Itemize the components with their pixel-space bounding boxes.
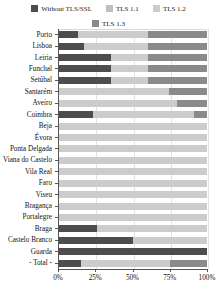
legend-item-tls-1-2[interactable]: TLS 1.2 <box>153 5 186 13</box>
table-row[interactable] <box>59 177 207 188</box>
stacked-bar[interactable] <box>59 225 207 232</box>
bar-segment[interactable] <box>194 111 207 118</box>
stacked-bar[interactable] <box>59 43 207 50</box>
table-row[interactable] <box>59 235 207 246</box>
y-axis-label: Viana do Castelo <box>0 155 55 166</box>
x-axis-label: 50% <box>126 274 139 282</box>
bar-segment[interactable] <box>59 168 207 175</box>
bar-segment[interactable] <box>59 203 207 210</box>
table-row[interactable] <box>59 155 207 166</box>
bar-segment[interactable] <box>59 237 133 244</box>
bar-segment[interactable] <box>59 157 207 164</box>
stacked-bar[interactable] <box>59 203 207 210</box>
y-axis-label: Viseu <box>0 189 55 200</box>
table-row[interactable] <box>59 75 207 86</box>
stacked-bar[interactable] <box>59 180 207 187</box>
y-axis-label: Bragança <box>0 200 55 211</box>
y-axis-label: Funchal <box>0 63 55 74</box>
bar-segment[interactable] <box>133 237 207 244</box>
table-row[interactable] <box>59 189 207 200</box>
bar-segment[interactable] <box>148 65 207 72</box>
stacked-bar[interactable] <box>59 31 207 38</box>
y-axis-label: Vila Real <box>0 166 55 177</box>
bar-segment[interactable] <box>59 111 93 118</box>
y-axis-label: Faro <box>0 177 55 188</box>
table-row[interactable] <box>59 109 207 120</box>
table-row[interactable] <box>59 212 207 223</box>
bar-segment[interactable] <box>78 31 148 38</box>
table-row[interactable] <box>59 143 207 154</box>
stacked-bar[interactable] <box>59 157 207 164</box>
legend-item-tls-1-1[interactable]: TLS 1.1 <box>106 5 139 13</box>
bar-segment[interactable] <box>81 260 170 267</box>
y-axis-label: Braga <box>0 223 55 234</box>
table-row[interactable] <box>59 98 207 109</box>
table-row[interactable] <box>59 223 207 234</box>
table-row[interactable] <box>59 246 207 257</box>
bar-segment[interactable] <box>59 260 81 267</box>
bar-segment[interactable] <box>169 88 207 95</box>
bar-segment[interactable] <box>59 31 78 38</box>
bar-segment[interactable] <box>59 191 207 198</box>
legend-swatch-icon-without-tls-ssl <box>31 5 38 12</box>
stacked-bar[interactable] <box>59 248 207 255</box>
table-row[interactable] <box>59 52 207 63</box>
stacked-bar[interactable] <box>59 214 207 221</box>
stacked-bar[interactable] <box>59 77 207 84</box>
bar-segment[interactable] <box>59 123 207 130</box>
bar-segment[interactable] <box>59 77 111 84</box>
stacked-bar[interactable] <box>59 100 207 107</box>
table-row[interactable] <box>59 257 207 268</box>
legend-item-without-tls-ssl[interactable]: Without TLS/SSL <box>31 5 92 13</box>
bar-segment[interactable] <box>84 43 148 50</box>
table-row[interactable] <box>59 29 207 40</box>
bar-segment[interactable] <box>59 145 207 152</box>
table-row[interactable] <box>59 200 207 211</box>
bar-segment[interactable] <box>148 43 207 50</box>
bar-segment[interactable] <box>59 248 207 255</box>
table-row[interactable] <box>59 86 207 97</box>
bar-segment[interactable] <box>59 214 207 221</box>
table-row[interactable] <box>59 40 207 51</box>
x-axis-tick <box>170 269 171 272</box>
y-axis-label: Setúbal <box>0 75 55 86</box>
stacked-bar[interactable] <box>59 237 207 244</box>
bar-segment[interactable] <box>59 100 177 107</box>
x-axis-label: 100% <box>199 274 216 282</box>
bar-segment[interactable] <box>111 54 148 61</box>
bar-segment[interactable] <box>148 31 207 38</box>
bar-segment[interactable] <box>93 111 194 118</box>
bar-segment[interactable] <box>170 260 207 267</box>
stacked-bar[interactable] <box>59 260 207 267</box>
bar-segment[interactable] <box>59 54 111 61</box>
stacked-bar[interactable] <box>59 54 207 61</box>
stacked-bar[interactable] <box>59 123 207 130</box>
chart-legend: Without TLS/SSL TLS 1.1 TLS 1.2 TLS 1.3 <box>0 2 217 28</box>
bar-segment[interactable] <box>59 225 97 232</box>
stacked-bar[interactable] <box>59 88 207 95</box>
stacked-bar[interactable] <box>59 134 207 141</box>
legend-item-tls-1-3[interactable]: TLS 1.3 <box>92 20 125 28</box>
stacked-bar[interactable] <box>59 191 207 198</box>
bar-segment[interactable] <box>59 180 207 187</box>
stacked-bar[interactable] <box>59 111 207 118</box>
bar-segment[interactable] <box>59 65 111 72</box>
bar-segment[interactable] <box>97 225 207 232</box>
bar-segment[interactable] <box>111 77 148 84</box>
bar-segment[interactable] <box>177 100 207 107</box>
bar-rows <box>59 29 207 269</box>
bar-segment[interactable] <box>148 77 207 84</box>
y-axis-label: Santarém <box>0 86 55 97</box>
bar-segment[interactable] <box>59 88 169 95</box>
table-row[interactable] <box>59 132 207 143</box>
bar-segment[interactable] <box>148 54 207 61</box>
stacked-bar[interactable] <box>59 168 207 175</box>
bar-segment[interactable] <box>59 134 207 141</box>
bar-segment[interactable] <box>111 65 148 72</box>
stacked-bar[interactable] <box>59 65 207 72</box>
stacked-bar[interactable] <box>59 145 207 152</box>
bar-segment[interactable] <box>59 43 84 50</box>
table-row[interactable] <box>59 166 207 177</box>
table-row[interactable] <box>59 63 207 74</box>
table-row[interactable] <box>59 120 207 131</box>
